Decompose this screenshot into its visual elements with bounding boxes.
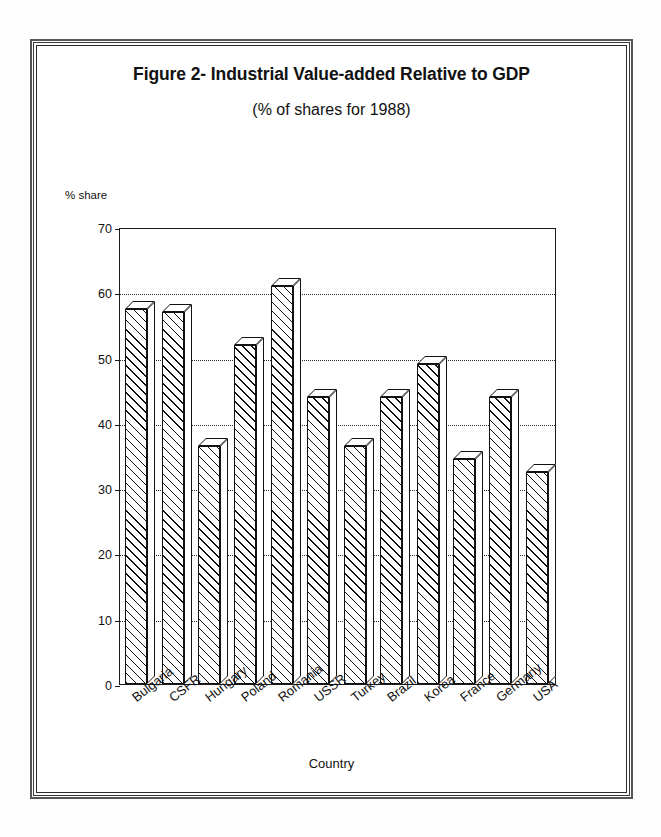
bar-side-face: [184, 304, 192, 684]
gridline: [120, 294, 555, 295]
bar-side-face: [329, 389, 337, 684]
figure-border-outer: Figure 2- Industrial Value-added Relativ…: [33, 42, 630, 796]
bar-side-face: [366, 438, 374, 684]
bar-side-face: [220, 438, 228, 684]
bar: [198, 438, 220, 684]
bar-front-face: [162, 312, 184, 684]
bar: [125, 301, 147, 684]
bar-front-face: [198, 446, 220, 684]
bar-side-face: [439, 356, 447, 684]
bar-side-face: [293, 278, 301, 684]
bar-front-face: [271, 286, 293, 684]
y-tick-label: 10: [98, 614, 112, 628]
bar-front-face: [453, 459, 475, 684]
y-tick-mark: [115, 294, 120, 295]
y-tick-label: 50: [98, 353, 112, 367]
y-axis-label: % share: [65, 189, 107, 201]
scanned-page: Figure 2- Industrial Value-added Relativ…: [0, 0, 661, 837]
bar-front-face: [417, 364, 439, 684]
bar: [162, 304, 184, 684]
y-tick-mark: [115, 360, 120, 361]
bar-side-face: [147, 301, 155, 684]
bar-side-face: [256, 337, 264, 684]
bar: [234, 337, 256, 684]
y-tick-mark: [115, 490, 120, 491]
y-tick-mark: [115, 621, 120, 622]
bar: [453, 451, 475, 684]
bar-front-face: [307, 397, 329, 684]
figure-title: Figure 2- Industrial Value-added Relativ…: [37, 64, 626, 85]
bar-side-face: [402, 389, 410, 684]
y-tick-label: 70: [98, 222, 112, 236]
bar-side-face: [511, 389, 519, 684]
y-tick-label: 0: [105, 679, 112, 693]
bar-front-face: [234, 345, 256, 684]
bar: [526, 464, 548, 684]
plot-area: 010203040506070: [119, 228, 556, 685]
bar-front-face: [380, 397, 402, 684]
y-tick-mark: [115, 555, 120, 556]
bar-front-face: [526, 472, 548, 684]
y-tick-label: 60: [98, 287, 112, 301]
bar-front-face: [489, 397, 511, 684]
bar-side-face: [548, 464, 556, 684]
bar: [380, 389, 402, 684]
bar: [307, 389, 329, 684]
y-tick-mark: [115, 686, 120, 687]
figure-subtitle: (% of shares for 1988): [37, 101, 626, 119]
bar-front-face: [125, 309, 147, 684]
bar-side-face: [475, 451, 483, 684]
bar: [344, 438, 366, 684]
bar: [489, 389, 511, 684]
bar: [271, 278, 293, 684]
y-tick-label: 20: [98, 548, 112, 562]
y-tick-label: 40: [98, 418, 112, 432]
y-tick-mark: [115, 425, 120, 426]
y-tick-mark: [115, 229, 120, 230]
y-tick-label: 30: [98, 483, 112, 497]
bar: [417, 356, 439, 684]
figure-border-inner: Figure 2- Industrial Value-added Relativ…: [36, 45, 627, 793]
bar-front-face: [344, 446, 366, 684]
x-axis-title: Country: [37, 756, 626, 771]
